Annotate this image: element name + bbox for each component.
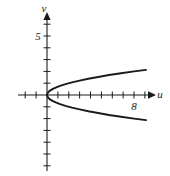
x-tick-label-8: 8 (131, 100, 137, 112)
coordinate-plane-plot: v u 5 8 (0, 0, 170, 176)
u-axis-arrowhead (148, 91, 156, 98)
parabola-upper-branch (47, 70, 146, 95)
u-axis-label: u (157, 88, 163, 100)
graph-figure: v u 5 8 (0, 0, 170, 176)
v-axis-label: v (42, 2, 47, 14)
y-tick-label-5: 5 (35, 30, 41, 42)
